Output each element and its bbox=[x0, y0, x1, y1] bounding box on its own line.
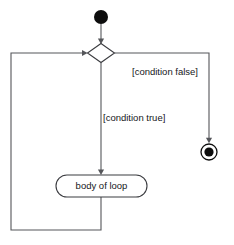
initial-node-circle bbox=[94, 10, 108, 24]
edge-initial-to-decision bbox=[98, 24, 104, 44]
final-node bbox=[201, 144, 217, 160]
arrowhead-into-body-of-loop bbox=[98, 169, 104, 175]
decision-node-diamond bbox=[88, 44, 115, 63]
action-node-body-of-loop-label: body of loop bbox=[76, 180, 128, 191]
edge-label-condition-false: [condition false] bbox=[132, 66, 198, 77]
activity-diagram-canvas: body of loop [condition false] [conditio… bbox=[0, 0, 234, 245]
activity-diagram-svg: body of loop [condition false] [conditio… bbox=[0, 0, 234, 245]
initial-node bbox=[94, 10, 108, 24]
final-node-inner-circle bbox=[204, 147, 213, 156]
arrowhead-into-final-node bbox=[206, 138, 212, 144]
edge-body-to-decision-line bbox=[11, 53, 101, 230]
action-node-body-of-loop: body of loop bbox=[56, 175, 147, 197]
edge-label-condition-true: [condition true] bbox=[103, 112, 165, 123]
edge-body-to-decision-loopback bbox=[11, 50, 101, 230]
decision-node bbox=[88, 44, 115, 63]
